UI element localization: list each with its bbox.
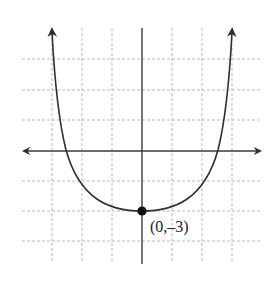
parabola-graph: (0,–3) bbox=[0, 0, 273, 286]
vertex-label: (0,–3) bbox=[150, 218, 189, 236]
vertex-point bbox=[137, 206, 146, 215]
